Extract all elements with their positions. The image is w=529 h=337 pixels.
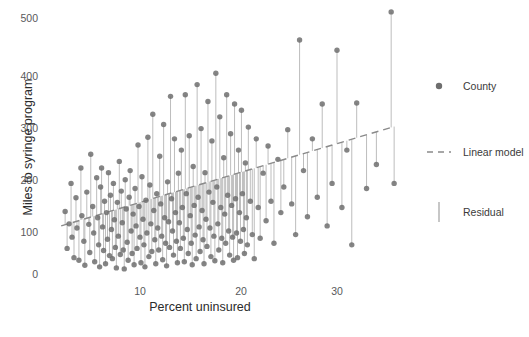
county-data-point bbox=[132, 186, 137, 191]
county-data-point bbox=[155, 225, 160, 230]
county-data-point bbox=[202, 170, 207, 175]
scatter-plot-figure: 500 400 300 200 100 0 10 20 30 Percent u… bbox=[0, 0, 529, 337]
county-data-point bbox=[315, 195, 320, 200]
county-data-point bbox=[148, 221, 153, 226]
legend-county-dot-icon bbox=[436, 83, 442, 89]
county-data-point bbox=[285, 127, 290, 132]
county-data-point bbox=[164, 263, 169, 268]
county-data-point bbox=[120, 220, 125, 225]
county-data-point bbox=[142, 264, 147, 269]
linear-model-line-group bbox=[61, 127, 394, 226]
county-data-point bbox=[152, 237, 157, 242]
county-data-point bbox=[219, 235, 224, 240]
county-data-point bbox=[238, 239, 243, 244]
county-data-point bbox=[214, 184, 219, 189]
county-data-point bbox=[69, 234, 74, 239]
county-data-point bbox=[157, 154, 162, 159]
county-data-point bbox=[112, 217, 117, 222]
county-data-point bbox=[257, 235, 262, 240]
county-data-point bbox=[252, 256, 257, 261]
county-data-point bbox=[173, 210, 178, 215]
county-data-point bbox=[203, 217, 208, 222]
county-data-point bbox=[243, 160, 248, 165]
county-data-point bbox=[92, 259, 97, 264]
county-data-point bbox=[223, 241, 228, 246]
county-data-point bbox=[125, 258, 130, 263]
county-data-point bbox=[216, 247, 221, 252]
county-data-point bbox=[227, 252, 232, 257]
county-data-point bbox=[119, 188, 124, 193]
county-data-point bbox=[374, 162, 379, 167]
x-tick-10: 10 bbox=[120, 285, 160, 297]
legend-label-county: County bbox=[463, 80, 496, 92]
county-data-point bbox=[104, 210, 109, 215]
county-data-point bbox=[169, 196, 174, 201]
county-data-point bbox=[135, 142, 140, 147]
county-data-point bbox=[101, 248, 106, 253]
county-data-point bbox=[211, 233, 216, 238]
county-data-point bbox=[349, 242, 354, 247]
county-data-point bbox=[98, 184, 103, 189]
county-data-point bbox=[244, 215, 249, 220]
county-data-point bbox=[115, 200, 120, 205]
county-data-point bbox=[105, 237, 110, 242]
county-data-point bbox=[225, 192, 230, 197]
y-tick-0: 0 bbox=[4, 268, 38, 280]
county-data-point bbox=[224, 92, 229, 97]
county-data-point bbox=[176, 170, 181, 175]
county-data-point bbox=[265, 143, 270, 148]
county-data-point bbox=[163, 241, 168, 246]
county-data-point bbox=[186, 251, 191, 256]
county-data-point bbox=[229, 203, 234, 208]
county-data-point bbox=[220, 260, 225, 265]
county-data-point bbox=[197, 249, 202, 254]
county-data-point bbox=[193, 256, 198, 261]
county-data-point bbox=[175, 260, 180, 265]
county-data-point bbox=[245, 242, 250, 247]
county-data-point bbox=[275, 157, 280, 162]
county-data-point bbox=[172, 136, 177, 141]
county-data-point bbox=[301, 168, 306, 173]
county-data-point bbox=[162, 215, 167, 220]
county-data-point bbox=[281, 184, 286, 189]
county-data-point bbox=[167, 245, 172, 250]
county-data-point bbox=[293, 232, 298, 237]
county-data-point bbox=[96, 242, 101, 247]
county-data-point bbox=[158, 201, 163, 206]
county-data-point bbox=[391, 181, 396, 186]
county-data-point bbox=[154, 191, 159, 196]
county-data-point bbox=[62, 209, 67, 214]
county-data-point bbox=[166, 219, 171, 224]
county-data-point bbox=[215, 221, 220, 226]
county-data-point bbox=[143, 198, 148, 203]
county-data-point bbox=[94, 175, 99, 180]
county-data-point bbox=[124, 240, 129, 245]
county-data-point bbox=[124, 206, 129, 211]
county-data-point bbox=[168, 94, 173, 99]
county-data-point bbox=[198, 126, 203, 131]
county-data-point bbox=[84, 189, 89, 194]
county-data-point bbox=[139, 174, 144, 179]
county-data-point bbox=[305, 214, 310, 219]
county-data-point bbox=[194, 82, 199, 87]
county-data-point bbox=[145, 135, 150, 140]
legend-label-linear-model: Linear model bbox=[463, 146, 524, 158]
county-data-point bbox=[236, 147, 241, 152]
county-data-point bbox=[344, 147, 349, 152]
county-data-point bbox=[205, 99, 210, 104]
county-data-point bbox=[354, 100, 359, 105]
county-data-point bbox=[218, 205, 223, 210]
county-data-point bbox=[254, 136, 259, 141]
county-data-point bbox=[109, 227, 114, 232]
county-data-point bbox=[239, 107, 244, 112]
county-data-point bbox=[103, 261, 108, 266]
county-data-point bbox=[151, 208, 156, 213]
county-data-point bbox=[118, 252, 123, 257]
county-data-point bbox=[88, 152, 93, 157]
county-data-point bbox=[121, 247, 126, 252]
county-data-point bbox=[122, 266, 127, 271]
county-data-point bbox=[232, 101, 237, 106]
county-data-point bbox=[91, 230, 96, 235]
county-data-point bbox=[100, 224, 105, 229]
county-data-point bbox=[90, 204, 95, 209]
